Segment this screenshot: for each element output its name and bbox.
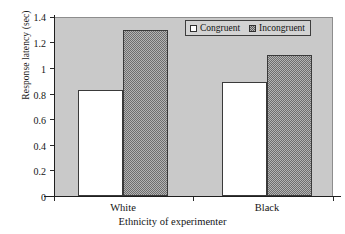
plot-inner [54, 18, 332, 196]
x-category-label-black: Black [222, 202, 312, 214]
legend-label-congruent: Congruent [200, 23, 240, 33]
legend-entry-incongruent[interactable]: Incongruent [249, 23, 305, 33]
y-tick-label-0-6: 0.6 [12, 116, 46, 126]
bar-black-congruent[interactable] [222, 82, 267, 196]
x-axis-title: Ethnicity of experimenter [0, 216, 345, 228]
y-tick-label-0-2: 0.2 [12, 167, 46, 177]
y-tick-label-0-8: 0.8 [12, 91, 46, 101]
y-tick-label-1-2: 1.2 [12, 39, 46, 49]
hatched-square-swatch-icon [249, 25, 256, 32]
chart-legend[interactable]: Congruent Incongruent [185, 20, 311, 36]
bar-white-congruent[interactable] [78, 90, 123, 196]
legend-entry-congruent[interactable]: Congruent [190, 23, 240, 33]
bar-white-incongruent[interactable] [123, 30, 168, 196]
bar-black-incongruent[interactable] [267, 55, 312, 196]
y-axis-tick-labels: 0 0.2 0.4 0.6 0.8 1 1.2 1.4 [12, 0, 46, 234]
plot-area: Congruent Incongruent [54, 17, 333, 196]
bar-chart-figure: Response latency (sec) 0 0.2 0.4 0.6 0.8… [0, 0, 345, 234]
y-tick-label-0: 0 [12, 193, 46, 203]
y-tick-label-1: 1 [12, 65, 46, 75]
x-category-label-white: White [78, 202, 168, 214]
y-tick-label-0-4: 0.4 [12, 142, 46, 152]
empty-square-swatch-icon [190, 25, 197, 32]
legend-label-incongruent: Incongruent [259, 23, 305, 33]
y-axis-line [54, 15, 55, 198]
y-tick-label-1-4: 1.4 [12, 13, 46, 23]
